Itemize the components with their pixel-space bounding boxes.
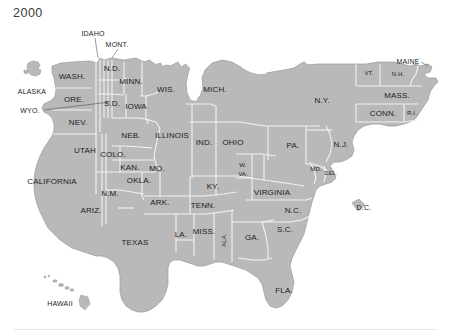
idaho-leader (95, 38, 98, 58)
alaska-shape (24, 61, 41, 76)
state-label-idaho: IDAHO (81, 30, 104, 37)
state-label-alaska: ALASKA (18, 88, 46, 95)
montana-leader (112, 49, 118, 58)
year-title: 2000 (13, 6, 43, 20)
state-label-maine: MAINE (396, 58, 419, 65)
mainland-landmass (34, 58, 438, 312)
state-label-wyoming: WYO. (20, 107, 39, 114)
cartogram-svg (0, 0, 451, 336)
mainland-outline (34, 58, 438, 312)
bottom-divider (14, 329, 437, 330)
state-label-montana: MONT. (106, 41, 129, 48)
population-cartogram-figure: 2000 WASH.ORE.NEV.CALIFORNIAUTAHARIZ.N.M… (0, 0, 451, 336)
state-label-hawaii: HAWAII (47, 300, 73, 307)
state-label-district-of-columbia: D.C. (357, 204, 372, 211)
